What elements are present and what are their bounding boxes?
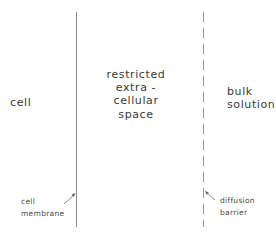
region-label-restricted-space: restricted extra - cellular space [100,68,172,121]
diagram-canvas: cell restricted extra - cellular space b… [0,0,276,238]
region-label-cell: cell [10,96,31,109]
barrier-pointer-arrow-icon [205,191,215,200]
region-label-bulk-solution: bulk solution [227,85,275,111]
boundary-label-diffusion-barrier: diffusion barrier [220,195,255,218]
boundary-label-cell-membrane: cell membrane [21,196,64,219]
membrane-pointer-arrow-icon [64,193,76,204]
